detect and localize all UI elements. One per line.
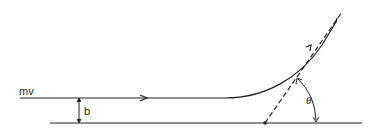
momentum-label: mv — [19, 85, 34, 97]
direction-arrow-icon — [306, 45, 311, 51]
impact-parameter-label: b — [84, 105, 90, 117]
theta-label: θ — [306, 94, 312, 106]
arrowhead-icon — [296, 78, 302, 84]
asymptote-dashed-line — [265, 12, 342, 123]
scattering-center-dot — [263, 121, 267, 125]
particle-trajectory — [20, 18, 337, 98]
scattering-diagram: mv b θ — [0, 0, 375, 130]
